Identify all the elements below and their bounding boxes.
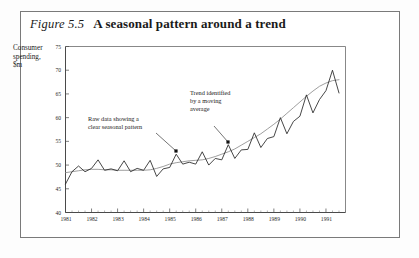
x-tick-label: 1985	[165, 216, 176, 222]
x-tick-label: 1981	[60, 216, 71, 222]
x-tick-label: 1991	[321, 216, 332, 222]
x-tick-label: 1982	[86, 216, 97, 222]
y-tick-label: 40	[55, 210, 61, 216]
raw-data-annotation-line-2: clear seasonal pattern	[88, 123, 143, 130]
trend-annotation-line-1: Trend identified	[190, 89, 231, 96]
x-tick-label: 1990	[295, 216, 306, 222]
y-tick-label: 60	[55, 115, 61, 121]
y-axis-ticks: 4045505560657075	[55, 44, 69, 216]
x-tick-label: 1986	[191, 216, 202, 222]
y-tick-label: 65	[55, 91, 61, 97]
y-tick-label: 45	[55, 186, 61, 192]
y-tick-label: 70	[55, 67, 61, 73]
trend-annotation-leader-line	[214, 126, 228, 142]
x-tick-label: 1989	[269, 216, 280, 222]
raw-data-annotation-marker	[174, 149, 177, 152]
x-axis-ticks: 1981198219831984198519861987198819891990…	[60, 209, 345, 222]
y-tick-label: 50	[55, 162, 61, 168]
raw-data-annotation-line-1: Raw data showing a	[88, 115, 139, 122]
x-tick-label: 1983	[112, 216, 123, 222]
trend-annotation-marker	[226, 140, 229, 143]
trend-annotation-line-2: by a moving	[190, 97, 222, 104]
raw-data-annotation-leader-line	[156, 133, 176, 151]
chart-annotations: Raw data showing aclear seasonal pattern…	[88, 89, 231, 153]
chart-plot-area: 4045505560657075 19811982198319841985198…	[0, 0, 419, 258]
y-tick-label: 75	[55, 44, 61, 50]
x-tick-label: 1987	[217, 216, 228, 222]
trend-annotation-line-3: average	[190, 105, 210, 112]
x-tick-label: 1988	[243, 216, 254, 222]
figure-root: Figure 5.5A seasonal pattern around a tr…	[0, 0, 419, 258]
y-tick-label: 55	[55, 138, 61, 144]
x-tick-label: 1984	[139, 216, 150, 222]
